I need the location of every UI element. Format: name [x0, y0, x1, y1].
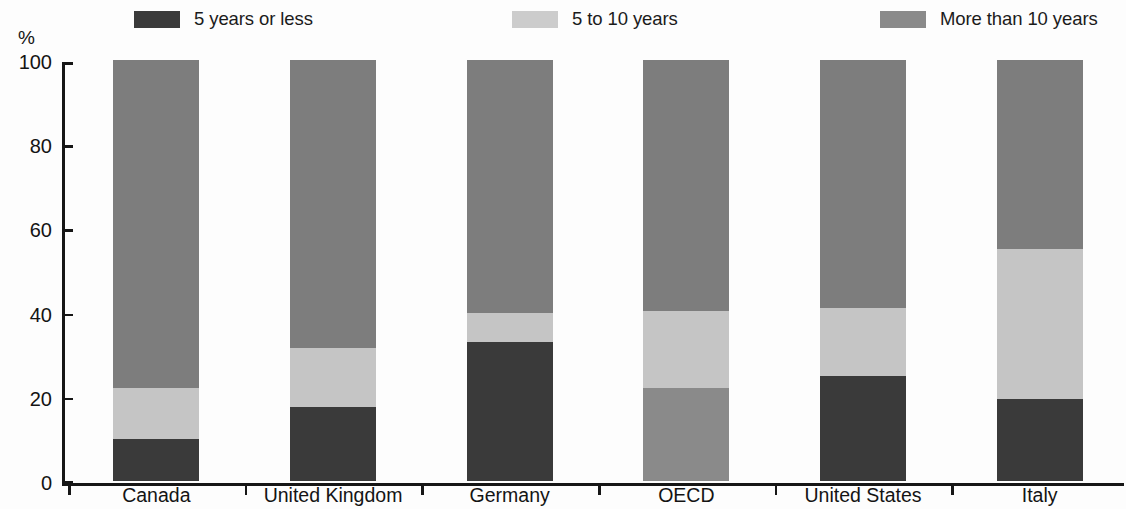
legend-swatch-5-years-or-less: [134, 11, 180, 28]
y-axis-tick-60: [62, 229, 73, 232]
bar-segment-germany-series-2: [467, 60, 553, 313]
x-axis-label-united-kingdom: United Kingdom: [264, 486, 403, 506]
bar-canada[interactable]: [113, 60, 199, 481]
y-axis-tick-labels: 020406080100: [0, 62, 52, 484]
y-axis-label-0: 0: [41, 473, 52, 493]
bar-segment-oecd-series-1: [643, 311, 729, 389]
x-axis-tick-3: [598, 483, 601, 495]
legend-swatch-more-than-10-years: [880, 11, 926, 28]
x-axis-label-canada: Canada: [122, 486, 190, 506]
y-axis-tick-40: [62, 314, 73, 317]
bar-italy[interactable]: [997, 60, 1083, 481]
bar-germany[interactable]: [467, 60, 553, 481]
bar-segment-oecd-series-2: [643, 60, 729, 310]
bar-segment-united-states-series-0: [820, 376, 906, 481]
x-axis-tick-4: [775, 483, 778, 495]
bar-segment-germany-series-1: [467, 313, 553, 342]
bar-segment-united-kingdom-series-1: [290, 348, 376, 407]
bar-segment-canada-series-1: [113, 388, 199, 439]
y-axis-tick-20: [62, 398, 73, 401]
legend-label-5-years-or-less: 5 years or less: [194, 10, 313, 29]
y-axis-tick-100: [62, 62, 73, 65]
x-axis-line: [62, 483, 1124, 486]
y-axis-label-80: 80: [30, 136, 52, 156]
bar-segment-italy-series-2: [997, 60, 1083, 249]
x-axis-label-italy: Italy: [1022, 486, 1058, 506]
legend-item-more-than-10-years[interactable]: More than 10 years: [880, 10, 1098, 29]
y-axis-tick-80: [62, 145, 73, 148]
legend-item-5-to-10-years[interactable]: 5 to 10 years: [512, 10, 678, 29]
stacked-bar-chart: 5 years or less 5 to 10 years More than …: [0, 0, 1126, 509]
bar-segment-united-kingdom-series-0: [290, 407, 376, 481]
x-axis-label-oecd: OECD: [658, 486, 714, 506]
bar-segment-italy-series-0: [997, 399, 1083, 481]
bar-united-kingdom[interactable]: [290, 60, 376, 481]
x-axis-tick-2: [421, 483, 424, 495]
bar-segment-united-kingdom-series-2: [290, 60, 376, 348]
legend-label-more-than-10-years: More than 10 years: [940, 10, 1098, 29]
y-axis-label-20: 20: [30, 389, 52, 409]
x-axis-label-united-states: United States: [804, 486, 921, 506]
x-axis-tick-0: [68, 483, 71, 495]
chart-legend: 5 years or less 5 to 10 years More than …: [0, 0, 1126, 42]
x-axis-tick-5: [951, 483, 954, 495]
y-axis-unit-label: %: [18, 28, 35, 47]
bar-segment-united-states-series-1: [820, 308, 906, 375]
bar-united-states[interactable]: [820, 60, 906, 481]
y-axis-label-60: 60: [30, 220, 52, 240]
bar-segment-canada-series-0: [113, 439, 199, 481]
y-axis-label-100: 100: [19, 52, 52, 72]
legend-swatch-5-to-10-years: [512, 11, 558, 28]
bar-segment-canada-series-2: [113, 60, 199, 388]
bar-segment-italy-series-1: [997, 249, 1083, 398]
x-axis-tick-1: [245, 483, 248, 495]
bar-oecd[interactable]: [643, 60, 729, 481]
bar-segment-oecd-series-0: [643, 388, 729, 481]
bar-segment-germany-series-0: [467, 342, 553, 481]
y-axis-line: [62, 62, 65, 485]
legend-item-5-years-or-less[interactable]: 5 years or less: [134, 10, 313, 29]
bar-segment-united-states-series-2: [820, 60, 906, 308]
legend-label-5-to-10-years: 5 to 10 years: [572, 10, 678, 29]
y-axis-label-40: 40: [30, 305, 52, 325]
plot-area: [62, 62, 1122, 484]
x-axis-label-germany: Germany: [470, 486, 550, 506]
